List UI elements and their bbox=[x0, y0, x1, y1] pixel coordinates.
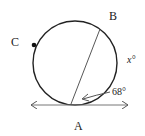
label-angle-68: 68° bbox=[112, 86, 126, 97]
label-a: A bbox=[74, 119, 83, 133]
label-b: B bbox=[109, 9, 117, 23]
label-c: C bbox=[11, 35, 19, 49]
geometry-diagram: B C x° 68° A bbox=[0, 0, 145, 136]
chord-ab bbox=[71, 29, 100, 104]
label-arc-x: x° bbox=[126, 54, 135, 65]
angle-pointer-arrow bbox=[83, 92, 110, 99]
circle bbox=[33, 21, 117, 105]
point-c-dot bbox=[32, 43, 37, 48]
